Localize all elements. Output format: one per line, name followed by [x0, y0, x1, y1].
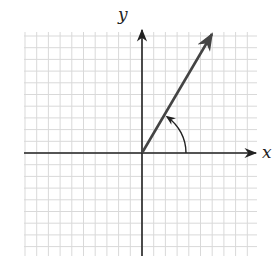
- grid: [24, 32, 257, 256]
- x-axis-label: x: [262, 142, 272, 162]
- coordinate-plane: y x: [0, 0, 274, 256]
- y-axis-label: y: [117, 4, 128, 24]
